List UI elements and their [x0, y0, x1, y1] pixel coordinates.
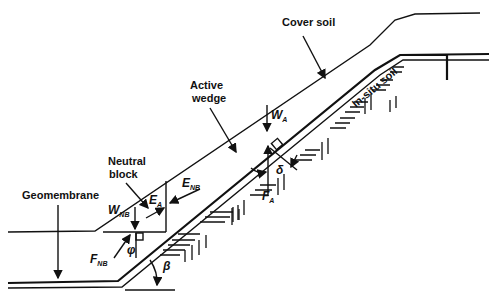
- fa-symbol: FA: [262, 189, 274, 204]
- wnb-symbol: WNB: [108, 203, 129, 218]
- geomembrane-label: Geomembrane: [22, 189, 99, 201]
- ea-symbol: EA: [149, 193, 162, 208]
- ea-force-arrow: [146, 208, 164, 218]
- phi-symbol: φ: [127, 243, 136, 257]
- enb-force-arrow: [170, 189, 200, 203]
- enb-symbol: ENB: [182, 176, 200, 191]
- active-wedge-label-line2: wedge: [191, 92, 226, 104]
- delta-symbol: δ: [276, 163, 284, 177]
- anchor-trench: [400, 55, 447, 80]
- active-wedge-label-line1: Active: [190, 79, 223, 91]
- cover-soil-label: Cover soil: [282, 16, 335, 28]
- wa-symbol: WA: [271, 108, 287, 123]
- active-wedge-arrow: [210, 108, 236, 152]
- delta-tick: [291, 155, 297, 167]
- fnb-symbol: FNB: [90, 252, 107, 267]
- neutral-block-label-line1: Neutral: [108, 155, 146, 167]
- cover-soil-arrow: [303, 36, 325, 78]
- beta-symbol: β: [162, 259, 171, 273]
- neutral-block-label-line2: block: [109, 168, 139, 180]
- right-angle-marker-nb: [136, 233, 143, 240]
- geomembrane-line: [8, 54, 489, 288]
- slope-stability-diagram: Cover soil In-situ soil Active wedge Neu…: [0, 0, 489, 291]
- neutral-block-arrow: [126, 183, 148, 208]
- normal-line-a: [270, 148, 297, 170]
